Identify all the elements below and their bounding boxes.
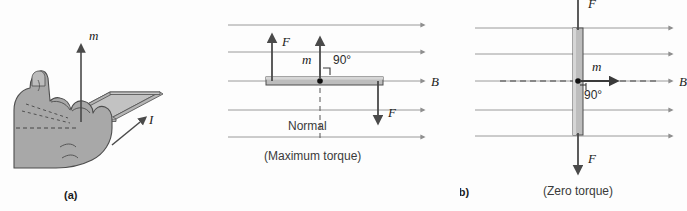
panel-b-right-angle-label: 90° <box>584 88 602 102</box>
right-angle-icon <box>323 68 330 75</box>
panel-b-left-condition-label: (Maximum torque) <box>264 149 361 163</box>
panel-b-right-field-label: B <box>679 74 687 89</box>
panel-b-right-force-down-label: F <box>587 151 597 166</box>
panel-b-right-moment-label: m <box>592 59 601 74</box>
panel-a-caption: (a) <box>64 189 78 201</box>
panel-b-left-moment-label: m <box>302 52 311 67</box>
physics-figure-magnetic-torque: m I (a) B Normal <box>0 0 687 211</box>
panel-b-right-force-up-label: F <box>587 0 597 11</box>
panel-b-zero-torque: B F F m 90° (Zero torque) ( <box>460 0 687 211</box>
panel-b-caption: (b) <box>460 186 469 198</box>
pivot-dot-icon <box>317 78 323 84</box>
panel-a-current-label: I <box>148 112 154 127</box>
panel-a-moment-label: m <box>89 28 98 43</box>
panel-b-left-force-down-label: F <box>387 105 397 120</box>
panel-b-left-field-label: B <box>431 74 439 89</box>
current-arrow-icon <box>112 118 145 145</box>
panel-b-maximum-torque: B Normal F F m 90° (Maximum torque) <box>210 0 450 211</box>
panel-b-left-force-up-label: F <box>281 34 291 49</box>
panel-a-right-hand-rule: m I (a) <box>0 0 230 211</box>
panel-b-left-angle-label: 90° <box>333 53 351 67</box>
panel-b-left-normal-label: Normal <box>288 119 327 133</box>
hand-grip-icon <box>14 71 112 168</box>
pivot-dot-icon <box>575 78 581 84</box>
loop-edge-on-icon <box>266 77 383 85</box>
panel-b-right-condition-label: (Zero torque) <box>543 184 613 198</box>
